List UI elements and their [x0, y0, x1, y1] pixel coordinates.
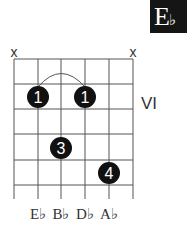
finger-dot: 3: [50, 137, 72, 159]
note-label: D♭: [76, 205, 94, 223]
note-label: E♭: [30, 205, 46, 223]
note-label: A♭: [100, 205, 118, 223]
note-label: B♭: [52, 205, 69, 223]
svg-text:4: 4: [105, 165, 114, 182]
svg-text:3: 3: [57, 140, 66, 157]
fretboard-grid: 1 1 3 4: [0, 0, 187, 233]
finger-dot: 1: [74, 86, 96, 108]
svg-text:1: 1: [34, 89, 43, 106]
fret-position-label: VI: [141, 94, 157, 114]
svg-text:1: 1: [81, 89, 90, 106]
finger-dot: 1: [27, 86, 49, 108]
finger-dot: 4: [98, 162, 120, 184]
